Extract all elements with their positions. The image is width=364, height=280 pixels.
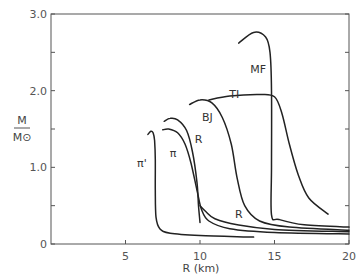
plot-frame (51, 14, 349, 244)
curve-label: R (195, 133, 203, 146)
x-tick-label: 5 (122, 250, 129, 263)
plot-border (51, 14, 349, 244)
y-axis-title-numerator: M (17, 114, 27, 127)
curve-label: MF (250, 63, 266, 76)
y-tick-label: 2.0 (30, 85, 48, 98)
axis-ticks (51, 14, 349, 244)
curve-label: TI (228, 88, 239, 101)
y-tick-label: 3.0 (30, 8, 48, 21)
curve-label: R (235, 208, 243, 221)
x-tick-label: 20 (342, 250, 356, 263)
curve-label: π' (137, 157, 147, 170)
y-axis-title-denominator: M⊙ (13, 131, 32, 144)
mass-radius-chart: 510152001.02.03.0 π'πRRBJTIMF R (km) M M… (0, 0, 364, 280)
y-axis-title: M M⊙ (13, 114, 32, 144)
y-tick-label: 1.0 (30, 161, 48, 174)
curve-mf-6 (239, 32, 349, 227)
curve-ti-5 (209, 94, 328, 214)
y-tick-label: 0 (40, 238, 47, 251)
curve-label: BJ (202, 111, 213, 124)
eos-curves (148, 32, 349, 237)
curve-labels: π'πRRBJTIMF (137, 63, 266, 221)
curve-r-3 (200, 206, 349, 232)
x-axis-title: R (km) (183, 262, 220, 275)
x-tick-label: 15 (268, 250, 282, 263)
curve-label: π (170, 147, 177, 160)
curve-bj-4 (190, 100, 349, 230)
